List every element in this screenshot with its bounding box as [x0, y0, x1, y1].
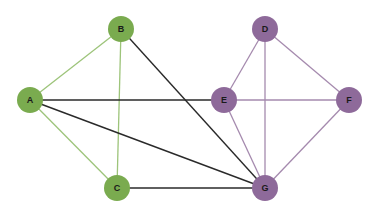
- edge-b-g: [121, 29, 265, 188]
- edge-a-c: [30, 100, 117, 188]
- node-g: G: [252, 175, 278, 201]
- graph-diagram: ABCDEFG: [0, 0, 376, 211]
- edge-b-c: [117, 29, 121, 188]
- node-label: D: [262, 24, 269, 34]
- node-f: F: [336, 87, 362, 113]
- edge-f-g: [265, 100, 349, 188]
- edges-layer: [30, 29, 349, 188]
- node-e: E: [211, 87, 237, 113]
- node-label: B: [118, 24, 125, 34]
- edge-d-f: [265, 29, 349, 100]
- node-c: C: [104, 175, 130, 201]
- node-label: E: [221, 95, 227, 105]
- nodes-layer: ABCDEFG: [17, 16, 362, 201]
- node-d: D: [252, 16, 278, 42]
- node-a: A: [17, 87, 43, 113]
- node-label: G: [261, 183, 268, 193]
- node-b: B: [108, 16, 134, 42]
- node-label: A: [27, 95, 34, 105]
- node-label: F: [346, 95, 352, 105]
- edge-a-b: [30, 29, 121, 100]
- node-label: C: [114, 183, 121, 193]
